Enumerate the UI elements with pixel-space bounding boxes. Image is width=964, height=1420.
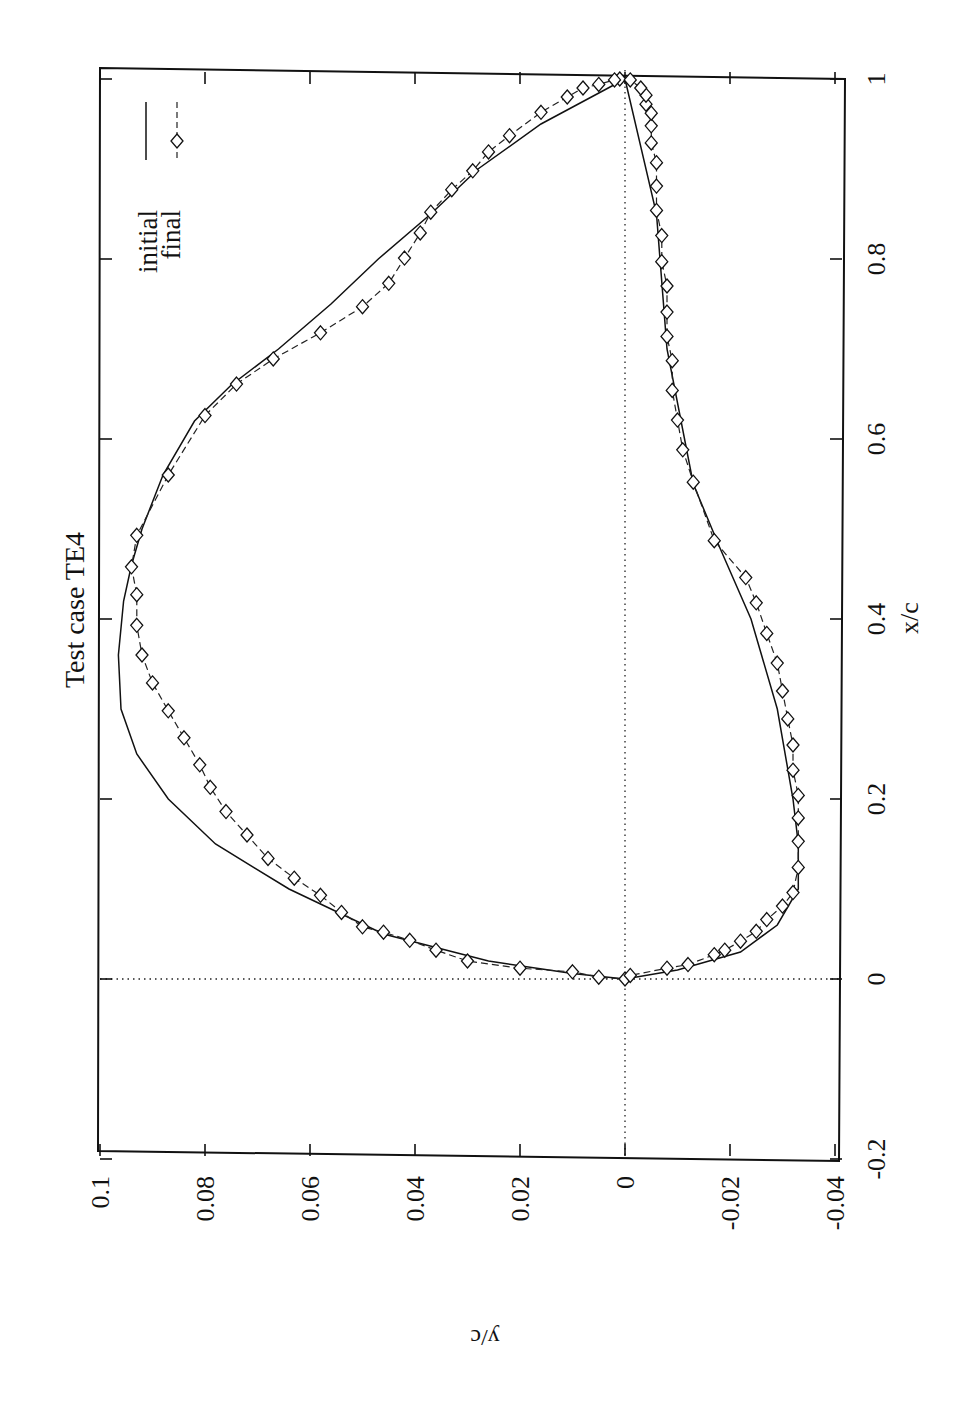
zero-lines — [100, 70, 842, 1156]
diamond-marker-icon — [761, 626, 773, 640]
diamond-marker-icon — [194, 758, 206, 772]
diamond-marker-icon — [147, 676, 159, 690]
axis-ticks — [100, 72, 842, 1159]
diamond-marker-icon — [267, 352, 279, 366]
diamond-marker-icon — [414, 226, 426, 240]
final-series-line — [132, 79, 799, 979]
y-tick-label: 0 — [611, 1176, 640, 1189]
x-tick-label: 0.4 — [862, 603, 891, 636]
y-tick-label: 0.1 — [86, 1176, 115, 1209]
diamond-marker-icon — [661, 329, 673, 343]
airfoil-plot: -0.200.20.40.60.810.10.080.060.040.020-0… — [0, 0, 964, 1420]
diamond-marker-icon — [430, 943, 442, 957]
legend-diamond-icon — [171, 134, 183, 148]
diamond-marker-icon — [241, 828, 253, 842]
diamond-marker-icon — [787, 738, 799, 752]
y-axis-label: y/c — [470, 1325, 499, 1351]
diamond-marker-icon — [593, 77, 605, 91]
x-tick-label: 0.2 — [862, 783, 891, 816]
diamond-marker-icon — [178, 731, 190, 745]
x-axis-label: x/c — [895, 602, 924, 634]
diamond-marker-icon — [131, 618, 143, 632]
diamond-marker-icon — [682, 958, 694, 972]
diamond-marker-icon — [777, 899, 789, 913]
diamond-marker-icon — [577, 81, 589, 95]
diamond-marker-icon — [204, 780, 216, 794]
diamond-marker-icon — [792, 860, 804, 874]
y-tick-label: -0.04 — [821, 1176, 850, 1230]
x-tick-label: 0.6 — [862, 423, 891, 456]
axis-tick-labels: -0.200.20.40.60.810.10.080.060.040.020-0… — [86, 73, 891, 1231]
diamond-marker-icon — [315, 888, 327, 902]
diamond-marker-icon — [404, 933, 416, 947]
diamond-marker-icon — [336, 905, 348, 919]
diamond-marker-icon — [661, 305, 673, 319]
x-tick-label: 0.8 — [862, 243, 891, 276]
diamond-marker-icon — [315, 326, 327, 340]
diamond-marker-icon — [651, 156, 663, 170]
diamond-marker-icon — [567, 965, 579, 979]
diamond-marker-icon — [593, 970, 605, 984]
initial-series-line — [118, 79, 798, 979]
diamond-marker-icon — [777, 684, 789, 698]
diamond-marker-icon — [535, 105, 547, 119]
plot-frame — [98, 68, 845, 1161]
diamond-marker-icon — [162, 468, 174, 482]
diamond-marker-icon — [357, 300, 369, 314]
diamond-marker-icon — [126, 560, 138, 574]
diamond-marker-icon — [735, 934, 747, 948]
diamond-marker-icon — [645, 136, 657, 150]
y-tick-label: 0.02 — [506, 1176, 535, 1222]
diamond-marker-icon — [792, 788, 804, 802]
legend-label-final: final — [156, 210, 186, 259]
diamond-marker-icon — [771, 656, 783, 670]
diamond-marker-icon — [761, 913, 773, 927]
x-tick-label: 0 — [862, 973, 891, 986]
diamond-marker-icon — [782, 712, 794, 726]
y-tick-label: -0.02 — [716, 1176, 745, 1230]
final-series-markers — [126, 72, 805, 986]
diamond-marker-icon — [740, 571, 752, 585]
diamond-marker-icon — [131, 588, 143, 602]
diamond-marker-icon — [687, 475, 699, 489]
diamond-marker-icon — [383, 276, 395, 290]
x-tick-label: 1 — [862, 73, 891, 86]
chart-title: Test case TE4 — [59, 532, 90, 688]
diamond-marker-icon — [514, 961, 526, 975]
y-tick-label: 0.08 — [191, 1176, 220, 1222]
diamond-marker-icon — [399, 251, 411, 265]
diamond-marker-icon — [561, 90, 573, 104]
diamond-marker-icon — [136, 648, 148, 662]
diamond-marker-icon — [378, 925, 390, 939]
diamond-marker-icon — [651, 179, 663, 193]
diamond-marker-icon — [288, 871, 300, 885]
diamond-marker-icon — [220, 805, 232, 819]
y-tick-label: 0.04 — [401, 1176, 430, 1222]
diamond-marker-icon — [162, 704, 174, 718]
diamond-marker-icon — [504, 129, 516, 143]
x-tick-label: -0.2 — [862, 1138, 891, 1179]
diamond-marker-icon — [656, 255, 668, 269]
diamond-marker-icon — [792, 834, 804, 848]
legend: initial final — [133, 102, 186, 273]
diamond-marker-icon — [750, 596, 762, 610]
diamond-marker-icon — [651, 203, 663, 217]
y-tick-label: 0.06 — [296, 1176, 325, 1222]
